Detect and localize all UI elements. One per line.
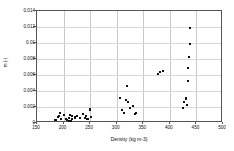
y-axis-tickmark [33,122,36,123]
x-axis-tickmark [169,122,170,124]
scatter-chart-figure: 00.0020.0040.0060.0080.010.0120.014 1502… [0,0,234,151]
x-axis-tickmark [142,122,143,124]
x-axis-title: Density (kg m-3) [36,136,222,142]
x-axis-tick-label: 450 [192,125,200,130]
y-axis-tickmark [33,58,36,59]
x-axis-tick-label: 150 [32,125,40,130]
x-axis-tick-label: 300 [112,125,120,130]
y-axis-tickmark [33,106,36,107]
x-axis-tick-label: 200 [59,125,67,130]
y-axis-tickmark [33,90,36,91]
x-axis-tick-label: 500 [218,125,226,130]
x-axis-tickmark [116,122,117,124]
x-axis-tick-label: 350 [138,125,146,130]
x-axis-tickmark [36,122,37,124]
y-axis-tickmark [33,42,36,43]
x-axis-tickmark [63,122,64,124]
x-axis-tickmark [89,122,90,124]
x-axis-tickmark [195,122,196,124]
y-axis-tickmark [33,74,36,75]
x-axis-tick-label: 250 [85,125,93,130]
x-axis-tick-labels: 150200250300350400450500 [0,125,234,133]
x-axis-tick-label: 400 [165,125,173,130]
x-axis-tickmark [222,122,223,124]
y-axis-title: m (-) [3,49,8,77]
y-axis-tickmark [33,26,36,27]
y-axis-tickmark [33,10,36,11]
